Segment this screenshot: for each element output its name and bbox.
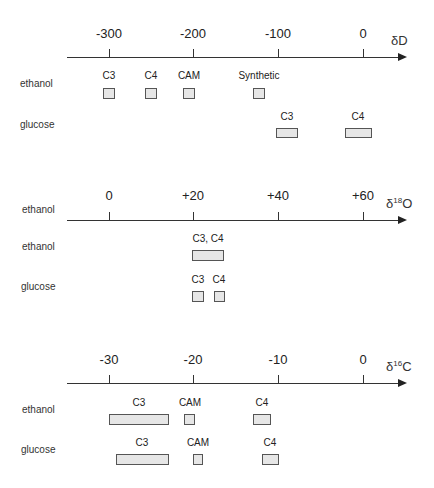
tick-label: -20 xyxy=(184,352,203,367)
range-box xyxy=(214,291,225,302)
tick-label: 0 xyxy=(359,352,366,367)
box-label: C4 xyxy=(213,274,226,285)
tick xyxy=(278,375,279,384)
arrow-icon xyxy=(398,379,407,387)
tick-label: -100 xyxy=(265,26,291,41)
tick-label: +60 xyxy=(352,188,374,203)
tick xyxy=(109,375,110,384)
row-label-ethanol-axis: ethanol xyxy=(22,204,55,215)
tick-label: -30 xyxy=(100,352,119,367)
axis-letter: C xyxy=(402,359,411,374)
tick-label: +40 xyxy=(267,188,289,203)
box-label: CAM xyxy=(187,437,209,448)
tick-label: -10 xyxy=(269,352,288,367)
range-box xyxy=(145,88,157,99)
range-box xyxy=(345,128,372,138)
axis-letter: D xyxy=(398,33,407,48)
box-label: C3 xyxy=(192,274,205,285)
arrow-icon xyxy=(398,53,407,61)
tick-label: -200 xyxy=(180,26,206,41)
range-box xyxy=(184,414,195,425)
tick-label: +20 xyxy=(182,188,204,203)
row-label-glucose: glucose xyxy=(21,444,55,455)
tick xyxy=(363,49,364,58)
tick xyxy=(278,49,279,58)
axis-title: δD xyxy=(391,33,408,48)
tick-label: 0 xyxy=(359,26,366,41)
box-label: Synthetic xyxy=(238,70,279,81)
axis-superscript: 16 xyxy=(393,359,402,368)
box-label: CAM xyxy=(179,397,201,408)
axis-line xyxy=(67,57,399,58)
row-label-ethanol: ethanol xyxy=(20,78,53,89)
range-box xyxy=(193,454,203,465)
box-label: C3 xyxy=(133,397,146,408)
axis-title: δ18O xyxy=(386,196,412,211)
tick xyxy=(278,212,279,221)
range-box xyxy=(253,88,265,99)
range-box xyxy=(103,88,115,99)
box-label: C3 xyxy=(103,70,116,81)
row-label-ethanol: ethanol xyxy=(22,241,55,252)
box-label: C3 xyxy=(136,437,149,448)
tick xyxy=(193,49,194,58)
range-box xyxy=(183,88,195,99)
box-label: C4 xyxy=(352,111,365,122)
box-label: C3, C4 xyxy=(192,233,223,244)
box-label: C4 xyxy=(145,70,158,81)
row-label-glucose: glucose xyxy=(20,119,54,130)
tick xyxy=(109,49,110,58)
tick-label: 0 xyxy=(105,188,112,203)
box-label: C3 xyxy=(281,111,294,122)
axis-superscript: 18 xyxy=(393,196,402,205)
range-box xyxy=(109,414,169,425)
tick xyxy=(363,212,364,221)
axis-line xyxy=(67,383,399,384)
tick xyxy=(193,375,194,384)
box-label: C4 xyxy=(256,397,269,408)
tick xyxy=(109,212,110,221)
range-box xyxy=(276,128,298,138)
box-label: CAM xyxy=(178,70,200,81)
tick-label: -300 xyxy=(96,26,122,41)
row-label-glucose: glucose xyxy=(21,281,55,292)
range-box xyxy=(262,454,279,465)
row-label-ethanol: ethanol xyxy=(22,404,55,415)
box-label: C4 xyxy=(264,437,277,448)
arrow-icon xyxy=(398,216,407,224)
range-box xyxy=(192,291,204,302)
range-box xyxy=(253,414,271,425)
tick xyxy=(363,375,364,384)
range-box xyxy=(192,250,224,261)
tick xyxy=(193,212,194,221)
axis-title: δ16C xyxy=(386,359,412,374)
range-box xyxy=(116,454,169,465)
axis-letter: O xyxy=(402,196,412,211)
axis-line xyxy=(67,220,399,221)
